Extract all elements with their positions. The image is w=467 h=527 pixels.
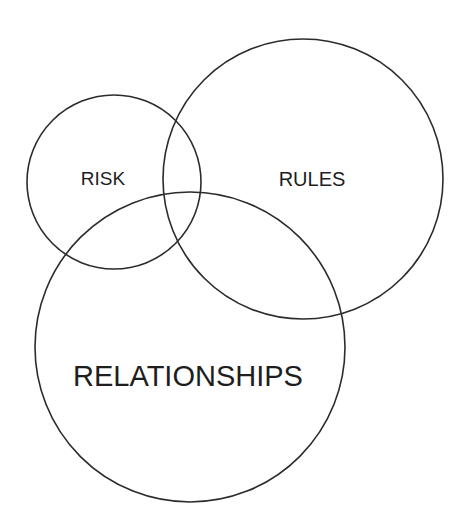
venn-diagram: RISK RULES RELATIONSHIPS <box>0 0 467 527</box>
rules-label: RULES <box>279 168 346 190</box>
relationships-circle <box>35 192 345 502</box>
relationships-label: RELATIONSHIPS <box>73 360 303 392</box>
risk-label: RISK <box>81 168 126 189</box>
